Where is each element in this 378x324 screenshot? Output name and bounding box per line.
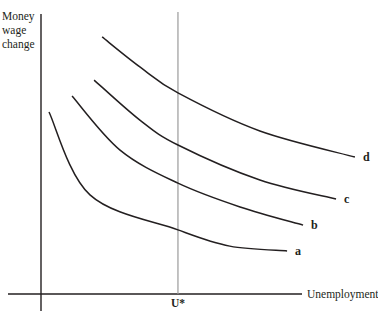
curve-label-c: c (344, 192, 350, 206)
curve-label-d: d (363, 150, 370, 164)
curve-label-b: b (311, 218, 318, 232)
natural-rate-label: U* (171, 297, 185, 309)
y-axis-label-line-2: wage (2, 24, 26, 37)
y-axis-label-line-3: change (2, 38, 35, 51)
y-axis-label-line-1: Money (2, 10, 35, 23)
curve-a (49, 112, 287, 251)
curve-c (94, 80, 336, 199)
curve-label-a: a (295, 244, 301, 258)
curves-group: abcd (49, 37, 370, 258)
phillips-curve-chart: abcd Money wage change Unemployment U* (0, 0, 378, 324)
curve-d (102, 37, 355, 157)
x-axis-label: Unemployment (307, 288, 378, 301)
